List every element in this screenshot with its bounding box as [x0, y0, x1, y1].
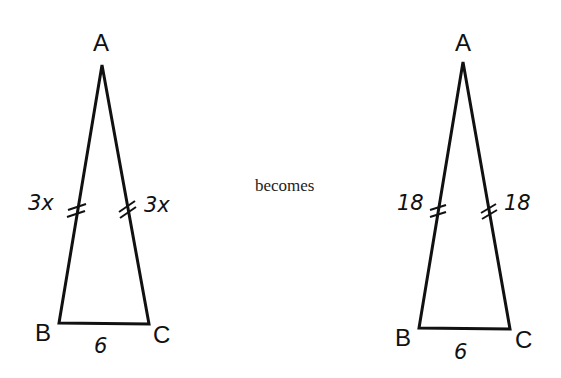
left-triangle-shape	[59, 65, 149, 324]
left-side-bc-label: 6	[94, 334, 107, 358]
right-vertex-a-label: A	[455, 29, 471, 56]
left-side-ac-label: 3x	[144, 193, 170, 217]
right-triangle: A B C 18 18 6	[395, 29, 532, 364]
right-side-bc-label: 6	[454, 340, 467, 364]
left-vertex-a-label: A	[93, 29, 109, 56]
right-side-ac-label: 18	[504, 191, 531, 215]
right-triangle-shape	[419, 62, 510, 329]
right-vertex-c-label: C	[515, 326, 532, 353]
left-vertex-b-label: B	[35, 319, 51, 346]
left-side-ab-label: 3x	[28, 191, 54, 215]
left-vertex-c-label: C	[153, 321, 170, 348]
left-triangle: A B C 3x 3x 6	[28, 29, 170, 358]
becomes-label: becomes	[255, 176, 314, 196]
right-side-ab-label: 18	[397, 191, 424, 215]
right-vertex-b-label: B	[395, 324, 411, 351]
